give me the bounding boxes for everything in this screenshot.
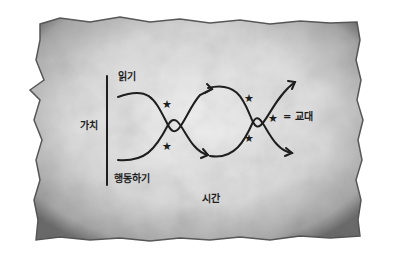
- star-icon: ★: [162, 140, 172, 153]
- bottom-label-doing: 행동하기: [114, 174, 150, 184]
- star-icon: ★: [162, 98, 172, 111]
- star-icon: ★: [244, 92, 254, 105]
- crumpled-paper-background: ★ ★ ★ ★ ★: [0, 0, 393, 256]
- star-icon: ★: [244, 132, 254, 145]
- x-axis-label-time: 시간: [202, 194, 220, 204]
- legend-meaning: 교대: [295, 111, 313, 122]
- top-label-reading: 읽기: [118, 72, 136, 82]
- y-axis-label-value: 가치: [80, 121, 98, 131]
- legend-text: = 교대: [283, 112, 313, 122]
- legend-star-icon: ★: [268, 112, 278, 125]
- legend-equals: =: [283, 111, 291, 122]
